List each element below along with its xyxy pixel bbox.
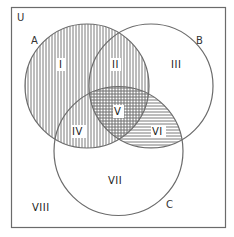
set-a-label: A	[31, 35, 38, 46]
region-label-vi: VI	[152, 126, 163, 137]
set-b-label: B	[196, 35, 203, 46]
region-label-v: V	[114, 106, 121, 117]
region-label-i: I	[59, 59, 62, 70]
region-label-iv: IV	[72, 126, 83, 137]
region-label-vii: VII	[108, 175, 122, 186]
region-label-viii: VIII	[32, 202, 50, 213]
region-label-iii: III	[171, 59, 181, 70]
set-c-label: C	[166, 199, 173, 210]
region-label-ii: II	[112, 59, 119, 70]
universe-label: U	[17, 12, 24, 23]
venn-diagram: U A B C I II III IV V VI VII VIII	[0, 0, 234, 237]
